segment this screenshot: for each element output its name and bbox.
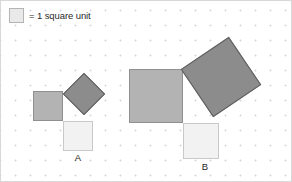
figure-b-label: B bbox=[195, 162, 215, 172]
square-a-leg bbox=[33, 91, 63, 121]
legend-label: = 1 square unit bbox=[29, 11, 91, 21]
square-b-base bbox=[183, 123, 219, 159]
square-b-leg bbox=[129, 69, 183, 123]
figure-panel: = 1 square unit A B bbox=[0, 0, 292, 182]
legend: = 1 square unit bbox=[9, 8, 91, 23]
square-b-hypotenuse bbox=[181, 37, 262, 118]
square-a-hypotenuse bbox=[63, 73, 105, 115]
square-a-base bbox=[63, 121, 93, 151]
unit-square-swatch-icon bbox=[9, 8, 24, 23]
figure-a-label: A bbox=[68, 153, 88, 163]
